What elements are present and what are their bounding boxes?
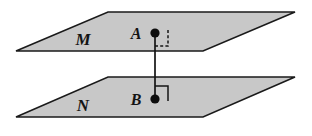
point-b-label: B [130,91,142,108]
point-a-dot [150,28,159,37]
parallel-planes-diagram: M N A B [0,0,312,136]
point-b-dot [150,94,159,103]
plane-m-label: M [74,30,91,49]
geometry-figure-container: M N A B [0,0,312,136]
plane-n-label: N [76,96,90,115]
point-a-label: A [130,25,142,42]
